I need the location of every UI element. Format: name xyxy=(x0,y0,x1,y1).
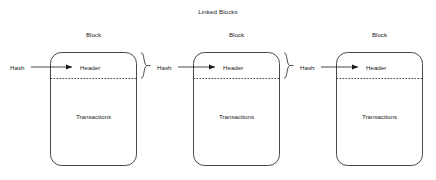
block-3-incoming-hash-label: Hash xyxy=(300,64,314,71)
block-1-incoming-hash-label: Hash xyxy=(10,64,24,71)
block-3-transactions-label: Transactions xyxy=(336,113,423,120)
diagram-title: Linked Blocks xyxy=(0,8,436,15)
block-1-transactions-label: Transactions xyxy=(50,113,137,120)
diagram-vector-layer xyxy=(0,0,436,180)
hash-bracket-2 xyxy=(285,53,294,78)
block-3-caption: Block xyxy=(336,31,423,38)
block-2-transactions-label: Transactions xyxy=(193,113,280,120)
block-3-header-label: Header xyxy=(366,64,386,71)
diagram-canvas: Linked Blocks Block Hash Header Transact… xyxy=(0,0,436,180)
block-1-header-label: Header xyxy=(80,64,100,71)
block-2-header-label: Header xyxy=(223,64,243,71)
block-1-caption: Block xyxy=(50,31,137,38)
block-2-incoming-hash-label: Hash xyxy=(157,64,171,71)
block-2-caption: Block xyxy=(193,31,280,38)
hash-bracket-1 xyxy=(142,53,151,78)
